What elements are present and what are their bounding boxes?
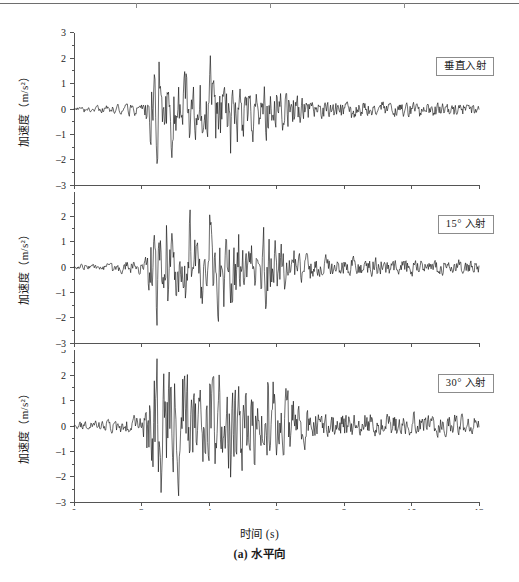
- y-tick-label-2-4: 1: [61, 395, 66, 406]
- figure-caption: (a) 水平向: [0, 545, 519, 561]
- y-axis-title-0: 加速度（m/s²）: [15, 59, 31, 159]
- y-tick-label-2-3: 0: [61, 421, 66, 432]
- y-axis-title-text-1: 加速度: [18, 272, 30, 306]
- chart-panel-2: –3–2–10123024681012加速度（m/s²）30° 入射: [0, 350, 519, 510]
- y-tick-label-1-4: 1: [61, 236, 66, 247]
- figure-acceleration-time-histories: –3–2–10123024681012加速度（m/s²）垂直入射–3–2–101…: [0, 0, 519, 582]
- y-axis-title-2: 加速度（m/s²）: [15, 376, 31, 476]
- acceleration-waveform-0: [74, 56, 479, 164]
- x-tick-label-2-6: 12: [474, 507, 484, 510]
- chart-panel-0: –3–2–10123024681012加速度（m/s²）垂直入射: [0, 20, 519, 192]
- y-tick-label-1-5: 2: [61, 211, 66, 222]
- acceleration-waveform-2: [74, 359, 479, 496]
- y-tick-label-0-5: 2: [61, 53, 66, 64]
- acceleration-waveform-1: [74, 210, 479, 326]
- y-axis-title-1: 加速度（m/s²）: [15, 217, 31, 317]
- x-tick-label-2-0: 0: [72, 507, 77, 510]
- y-tick-label-1-0: –3: [55, 338, 66, 349]
- legend-box-1: 15° 入射: [438, 215, 494, 235]
- legend-box-2: 30° 入射: [438, 374, 494, 394]
- y-tick-label-1-1: –2: [55, 312, 66, 323]
- y-tick-label-1-2: –1: [55, 287, 66, 298]
- y-axis-title-text-0: 加速度: [18, 114, 30, 148]
- y-tick-label-2-5: 2: [61, 370, 66, 381]
- y-tick-label-0-6: 3: [61, 27, 66, 38]
- x-tick-label-2-5: 10: [407, 507, 417, 510]
- y-axis-title-text-2: 加速度: [18, 431, 30, 465]
- y-tick-label-2-2: –1: [55, 446, 66, 457]
- y-tick-label-2-6: 3: [61, 350, 66, 355]
- x-tick-label-2-2: 4: [207, 507, 212, 510]
- y-axis-title-unit-1: （m/s²）: [18, 229, 30, 272]
- y-tick-label-0-1: –2: [55, 154, 66, 165]
- x-tick-label-2-3: 6: [274, 507, 279, 510]
- y-tick-label-2-0: –3: [55, 497, 66, 508]
- chart-panel-1: –3–2–1012024681012加速度（m/s²）15° 入射: [0, 192, 519, 350]
- y-axis-title-unit-2: （m/s²）: [18, 388, 30, 431]
- x-tick-label-2-4: 8: [342, 507, 347, 510]
- y-tick-label-0-2: –1: [55, 129, 66, 140]
- y-tick-label-0-4: 1: [61, 78, 66, 89]
- chart-plot-area-0: –3–2–10123024681012: [0, 20, 519, 192]
- y-axis-title-unit-0: （m/s²）: [18, 71, 30, 114]
- legend-box-0: 垂直入射: [436, 57, 494, 77]
- x-axis-title: 时间 (s): [0, 525, 519, 541]
- y-tick-label-1-3: 0: [61, 262, 66, 273]
- y-tick-label-0-3: 0: [61, 104, 66, 115]
- y-tick-label-0-0: –3: [55, 180, 66, 191]
- y-tick-label-2-1: –2: [55, 471, 66, 482]
- x-tick-label-2-1: 2: [139, 507, 144, 510]
